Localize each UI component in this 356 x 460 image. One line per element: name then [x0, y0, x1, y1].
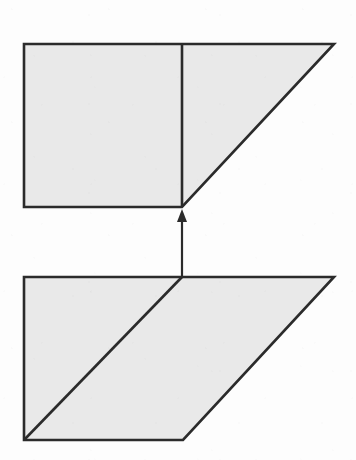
upper-figure-group	[24, 44, 334, 207]
lower-figure-group	[24, 277, 334, 440]
lower-figure-outline	[24, 277, 334, 440]
geometry-diagram-svg	[0, 0, 356, 460]
transform-arrow-group	[177, 209, 187, 277]
figure-canvas	[0, 0, 356, 460]
upper-figure-outline	[24, 44, 334, 207]
transform-arrow-head-icon	[177, 209, 187, 222]
